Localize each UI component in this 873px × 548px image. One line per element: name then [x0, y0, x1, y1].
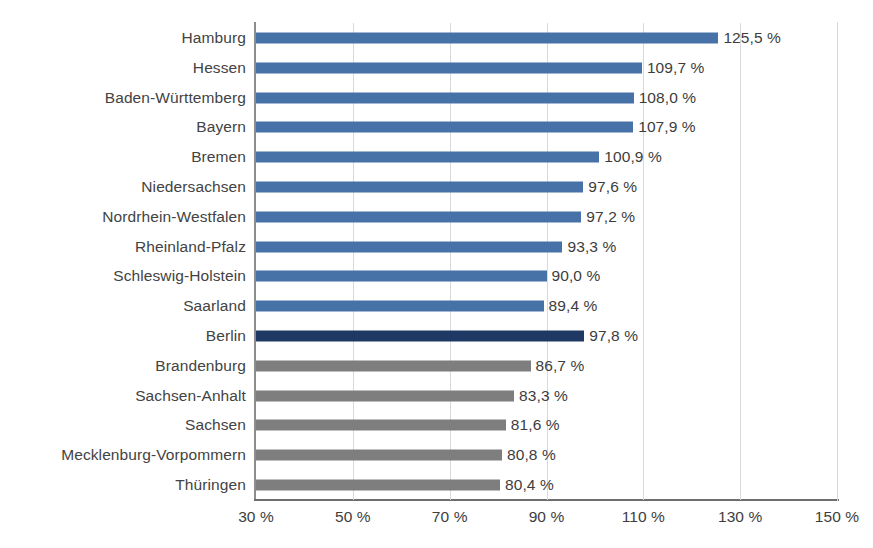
- bar-value-label: 97,2 %: [586, 208, 635, 226]
- category-label: Bayern: [0, 118, 246, 136]
- bar-rows: Hamburg125,5 %Hessen109,7 %Baden-Württem…: [0, 23, 873, 500]
- category-label: Schleswig-Holstein: [0, 267, 246, 285]
- bar-row[interactable]: Mecklenburg-Vorpommern80,8 %: [0, 440, 873, 470]
- bar-value-label: 90,0 %: [552, 267, 601, 285]
- category-label: Sachsen-Anhalt: [0, 387, 246, 405]
- category-label: Niedersachsen: [0, 178, 246, 196]
- bar-value-label: 93,3 %: [567, 238, 616, 256]
- bar[interactable]: [256, 181, 583, 192]
- bar-row[interactable]: Baden-Württemberg108,0 %: [0, 83, 873, 113]
- bar-value-label: 108,0 %: [639, 89, 697, 107]
- bar-value-label: 97,8 %: [589, 327, 638, 345]
- bar[interactable]: [256, 92, 634, 103]
- bar[interactable]: [256, 301, 544, 312]
- category-label: Hamburg: [0, 29, 246, 47]
- bar[interactable]: [256, 211, 581, 222]
- bar[interactable]: [256, 450, 502, 461]
- category-label: Berlin: [0, 327, 246, 345]
- category-label: Baden-Württemberg: [0, 89, 246, 107]
- bar[interactable]: [256, 480, 500, 491]
- bar-value-label: 97,6 %: [588, 178, 637, 196]
- bar[interactable]: [256, 62, 642, 73]
- bar-row[interactable]: Sachsen-Anhalt83,3 %: [0, 381, 873, 411]
- bar-row[interactable]: Bremen100,9 %: [0, 142, 873, 172]
- category-label: Nordrhein-Westfalen: [0, 208, 246, 226]
- x-tick-label: 70 %: [432, 508, 468, 526]
- bar[interactable]: [256, 420, 506, 431]
- category-label: Thüringen: [0, 476, 246, 494]
- x-tick-label: 150 %: [815, 508, 859, 526]
- x-tick-label: 50 %: [335, 508, 371, 526]
- bar-row[interactable]: Berlin97,8 %: [0, 321, 873, 351]
- bar-value-label: 86,7 %: [536, 357, 585, 375]
- bar-row[interactable]: Nordrhein-Westfalen97,2 %: [0, 202, 873, 232]
- category-label: Saarland: [0, 297, 246, 315]
- category-label: Mecklenburg-Vorpommern: [0, 446, 246, 464]
- bar[interactable]: [256, 360, 531, 371]
- bar-value-label: 80,8 %: [507, 446, 556, 464]
- x-tick-label: 110 %: [622, 508, 665, 526]
- bar-value-label: 107,9 %: [638, 118, 696, 136]
- bar-row[interactable]: Brandenburg86,7 %: [0, 351, 873, 381]
- category-label: Rheinland-Pfalz: [0, 238, 246, 256]
- bar[interactable]: [256, 122, 633, 133]
- bar[interactable]: [256, 152, 599, 163]
- x-tick-label: 30 %: [238, 508, 274, 526]
- bar-row[interactable]: Hessen109,7 %: [0, 53, 873, 83]
- category-label: Brandenburg: [0, 357, 246, 375]
- bar[interactable]: [256, 32, 718, 43]
- bar-chart: Hamburg125,5 %Hessen109,7 %Baden-Württem…: [0, 0, 873, 548]
- bar-row[interactable]: Hamburg125,5 %: [0, 23, 873, 53]
- chart-title: [30, 0, 630, 7]
- bar-row[interactable]: Bayern107,9 %: [0, 112, 873, 142]
- category-label: Hessen: [0, 59, 246, 77]
- bar[interactable]: [256, 331, 584, 342]
- bar-row[interactable]: Niedersachsen97,6 %: [0, 172, 873, 202]
- bar[interactable]: [256, 241, 562, 252]
- bar-value-label: 125,5 %: [723, 29, 781, 47]
- bar-value-label: 83,3 %: [519, 387, 568, 405]
- bar-value-label: 81,6 %: [511, 416, 560, 434]
- bar[interactable]: [256, 271, 547, 282]
- bar-row[interactable]: Saarland89,4 %: [0, 291, 873, 321]
- bar-value-label: 80,4 %: [505, 476, 554, 494]
- bar-row[interactable]: Rheinland-Pfalz93,3 %: [0, 232, 873, 262]
- bar-value-label: 100,9 %: [604, 148, 662, 166]
- category-label: Bremen: [0, 148, 246, 166]
- category-label: Sachsen: [0, 416, 246, 434]
- bar-value-label: 109,7 %: [647, 59, 705, 77]
- x-tick-label: 130 %: [718, 508, 762, 526]
- x-axis-tick-labels: 30 %50 %70 %90 %110 %130 %150 %: [0, 508, 873, 538]
- bar-value-label: 89,4 %: [549, 297, 598, 315]
- bar[interactable]: [256, 390, 514, 401]
- bar-row[interactable]: Schleswig-Holstein90,0 %: [0, 262, 873, 292]
- bar-row[interactable]: Sachsen81,6 %: [0, 411, 873, 441]
- x-tick-label: 90 %: [529, 508, 565, 526]
- bar-row[interactable]: Thüringen80,4 %: [0, 470, 873, 500]
